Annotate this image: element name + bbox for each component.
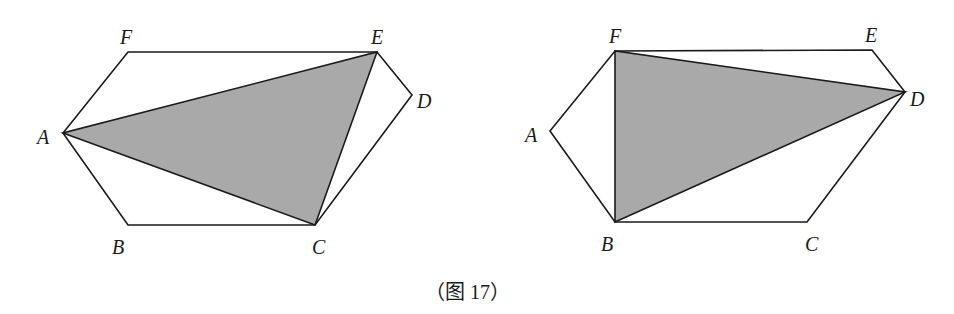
vertex-label-e: E — [370, 26, 383, 48]
vertex-label-c: C — [312, 236, 326, 258]
shaded-triangle-bdf — [615, 51, 905, 222]
figure-caption: （图 17） — [425, 281, 510, 303]
vertex-label-b: B — [601, 233, 613, 255]
vertex-label-e: E — [864, 24, 877, 46]
vertex-label-f: F — [119, 26, 133, 48]
figure-canvas: F E D A B C F E D A B C （图 17） — [0, 0, 954, 314]
vertex-label-d: D — [909, 88, 925, 110]
vertex-label-d: D — [416, 90, 432, 112]
vertex-label-c: C — [805, 233, 819, 255]
right-figure: F E D A B C — [523, 24, 925, 255]
left-figure: F E D A B C — [35, 26, 432, 258]
vertex-label-f: F — [608, 25, 622, 47]
vertex-label-b: B — [112, 236, 124, 258]
vertex-label-a: A — [523, 124, 538, 146]
vertex-label-a: A — [35, 126, 50, 148]
